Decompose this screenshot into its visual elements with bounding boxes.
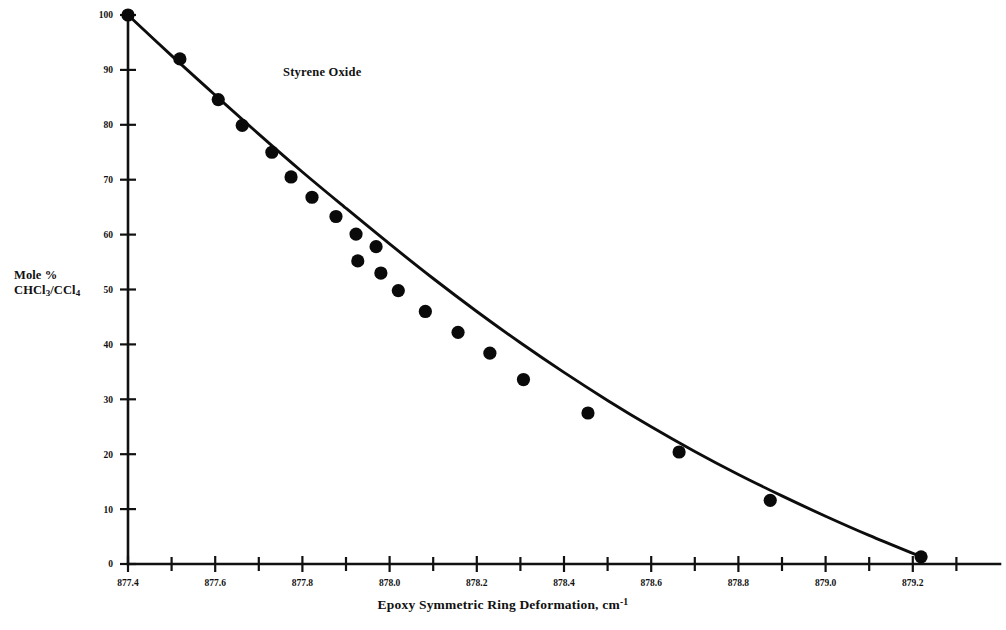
data-point	[329, 210, 342, 223]
data-point	[284, 170, 297, 183]
y-axis-tick-label: 100	[99, 10, 114, 20]
y-axis-tick-label: 40	[104, 340, 114, 350]
data-point	[121, 8, 134, 21]
y-axis-tick-labels: 0102030405060708090100	[99, 10, 114, 569]
y-axis-title-chcl: CHCl	[14, 283, 46, 297]
scatter-plot-canvas: 877.4877.6877.8878.0878.2878.4878.6878.8…	[0, 0, 1006, 630]
chart-figure: 877.4877.6877.8878.0878.2878.4878.6878.8…	[0, 0, 1006, 630]
x-axis-tick-labels: 877.4877.6877.8878.0878.2878.4878.6878.8…	[117, 578, 923, 588]
y-axis-tick-label: 0	[108, 559, 113, 569]
data-point	[419, 305, 432, 318]
y-axis-title-sub-4: 4	[76, 288, 81, 298]
data-point	[517, 373, 530, 386]
x-axis-title-exponent: -1	[620, 596, 629, 607]
data-point	[451, 326, 464, 339]
series-annotation-label: Styrene Oxide	[283, 65, 361, 80]
data-point	[173, 52, 186, 65]
y-axis-tick-label: 70	[104, 175, 114, 185]
data-point	[236, 119, 249, 132]
x-axis-title-text: Epoxy Symmetric Ring Deformation, cm	[378, 597, 620, 612]
y-axis-title-ccl: /CCl	[50, 283, 75, 297]
x-axis-tick-label: 878.4	[553, 578, 575, 588]
data-point	[483, 347, 496, 360]
y-axis-tick-label: 30	[104, 395, 114, 405]
data-point	[764, 494, 777, 507]
y-axis-title-line2: CHCl3/CCl4	[14, 283, 80, 297]
y-axis-tick-label: 20	[104, 450, 114, 460]
y-axis-tick-label: 50	[104, 285, 114, 295]
data-point	[305, 191, 318, 204]
data-point	[673, 445, 686, 458]
fit-curve	[128, 15, 921, 557]
x-axis-tick-label: 878.2	[466, 578, 488, 588]
x-axis-tick-label: 878.0	[379, 578, 401, 588]
data-point-group	[121, 8, 927, 563]
data-point	[349, 227, 362, 240]
x-axis-tick-label: 879.2	[902, 578, 924, 588]
data-point	[914, 550, 927, 563]
data-point	[581, 406, 594, 419]
y-axis-tick-label: 90	[104, 65, 114, 75]
y-axis-title: Mole % CHCl3/CCl4	[14, 268, 80, 301]
y-axis-tick-label: 80	[104, 120, 114, 130]
data-point	[351, 254, 364, 267]
y-axis-tick-label: 60	[104, 230, 114, 240]
y-axis-tick-label: 10	[104, 505, 114, 515]
x-axis-tick-label: 878.6	[641, 578, 663, 588]
x-axis-title: Epoxy Symmetric Ring Deformation, cm-1	[0, 596, 1006, 613]
data-point	[212, 93, 225, 106]
y-axis-title-line1: Mole %	[14, 268, 57, 282]
data-point	[265, 146, 278, 159]
x-axis-tick-label: 879.0	[815, 578, 837, 588]
data-point	[374, 266, 387, 279]
data-point	[392, 284, 405, 297]
data-point	[369, 240, 382, 253]
x-axis-tick-label: 877.6	[205, 578, 227, 588]
x-axis-tick-label: 877.8	[292, 578, 314, 588]
x-axis-tick-label: 877.4	[117, 578, 139, 588]
x-axis-tick-label: 878.8	[728, 578, 750, 588]
